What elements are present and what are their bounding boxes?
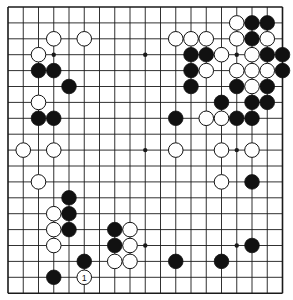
star-point (235, 148, 239, 152)
white-stone[interactable] (245, 143, 260, 158)
white-stone[interactable] (199, 63, 214, 78)
white-stone[interactable] (245, 47, 260, 62)
black-stone[interactable] (275, 47, 290, 62)
black-stone[interactable] (62, 206, 77, 221)
black-stone[interactable] (184, 79, 199, 94)
black-stone[interactable] (245, 16, 260, 31)
black-stone[interactable] (260, 16, 275, 31)
white-stone[interactable] (123, 254, 138, 269)
black-stone[interactable] (245, 32, 260, 47)
black-stone[interactable] (214, 95, 229, 110)
black-stone[interactable] (46, 270, 61, 285)
black-stone[interactable] (245, 111, 260, 126)
white-stone[interactable] (16, 143, 31, 158)
go-board[interactable]: 1 (0, 0, 293, 300)
white-stone[interactable] (214, 143, 229, 158)
black-stone[interactable] (77, 254, 92, 269)
star-point (235, 243, 239, 247)
black-stone[interactable] (229, 111, 244, 126)
black-stone[interactable] (199, 47, 214, 62)
white-stone[interactable] (107, 254, 122, 269)
black-stone[interactable] (31, 111, 46, 126)
black-stone[interactable] (62, 222, 77, 237)
white-stone[interactable] (199, 32, 214, 47)
white-stone[interactable] (31, 47, 46, 62)
black-stone[interactable] (275, 63, 290, 78)
black-stone[interactable] (168, 254, 183, 269)
white-stone[interactable] (245, 79, 260, 94)
black-stone[interactable] (46, 111, 61, 126)
white-stone[interactable] (46, 32, 61, 47)
black-stone[interactable] (31, 63, 46, 78)
black-stone[interactable] (184, 63, 199, 78)
black-stone[interactable] (184, 47, 199, 62)
black-stone[interactable] (107, 222, 122, 237)
white-stone[interactable] (46, 238, 61, 253)
white-stone[interactable] (77, 32, 92, 47)
star-point (52, 53, 56, 57)
black-stone[interactable] (62, 79, 77, 94)
white-stone[interactable] (46, 143, 61, 158)
black-stone[interactable] (260, 79, 275, 94)
white-stone[interactable] (31, 95, 46, 110)
black-stone[interactable] (260, 47, 275, 62)
black-stone[interactable] (245, 95, 260, 110)
move-number-label: 1 (82, 273, 87, 283)
star-point (235, 53, 239, 57)
white-stone[interactable] (214, 47, 229, 62)
white-stone[interactable] (123, 222, 138, 237)
black-stone[interactable] (229, 79, 244, 94)
black-stone[interactable] (107, 238, 122, 253)
white-stone[interactable] (260, 63, 275, 78)
white-stone[interactable] (229, 32, 244, 47)
white-stone[interactable] (168, 143, 183, 158)
white-stone[interactable] (260, 32, 275, 47)
black-stone[interactable] (245, 175, 260, 190)
white-stone[interactable] (214, 175, 229, 190)
white-stone[interactable] (184, 32, 199, 47)
black-stone[interactable] (260, 95, 275, 110)
white-stone[interactable] (199, 111, 214, 126)
black-stone[interactable] (168, 111, 183, 126)
black-stone[interactable] (245, 238, 260, 253)
white-stone[interactable] (168, 32, 183, 47)
white-stone[interactable] (214, 111, 229, 126)
star-point (143, 243, 147, 247)
white-stone[interactable] (229, 16, 244, 31)
white-stone[interactable] (245, 63, 260, 78)
black-stone[interactable] (214, 254, 229, 269)
black-stone[interactable] (46, 63, 61, 78)
white-stone[interactable] (46, 206, 61, 221)
star-point (143, 148, 147, 152)
black-stone[interactable] (62, 191, 77, 206)
white-stone[interactable] (123, 238, 138, 253)
star-point (143, 53, 147, 57)
white-stone[interactable] (31, 175, 46, 190)
white-stone[interactable] (229, 63, 244, 78)
white-stone[interactable] (46, 222, 61, 237)
